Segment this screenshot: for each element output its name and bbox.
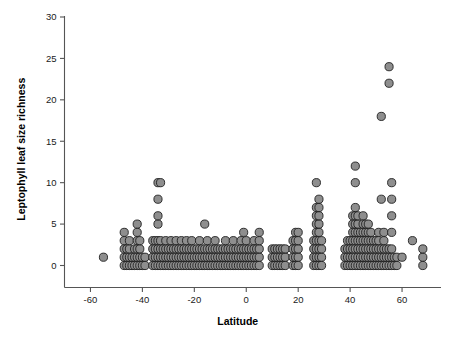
data-point — [211, 237, 219, 245]
data-point — [255, 245, 263, 253]
data-point — [317, 237, 325, 245]
data-point — [317, 261, 325, 269]
data-point — [419, 261, 427, 269]
data-point — [317, 245, 325, 253]
data-point — [136, 245, 144, 253]
data-point — [385, 63, 393, 71]
data-point — [203, 237, 211, 245]
data-point — [351, 162, 359, 170]
data-point — [364, 220, 372, 228]
data-point — [294, 253, 302, 261]
data-point — [120, 228, 128, 236]
data-point — [367, 228, 375, 236]
data-point — [221, 237, 229, 245]
data-point — [388, 212, 396, 220]
data-point — [154, 212, 162, 220]
data-point — [359, 212, 367, 220]
data-point — [133, 228, 141, 236]
data-point — [315, 195, 323, 203]
data-point — [294, 228, 302, 236]
data-point — [99, 253, 107, 261]
data-point — [317, 253, 325, 261]
data-point — [315, 220, 323, 228]
data-point — [242, 237, 250, 245]
data-point — [125, 237, 133, 245]
data-point — [315, 212, 323, 220]
data-point — [351, 203, 359, 211]
y-tick-label: 5 — [51, 218, 56, 229]
data-point — [141, 261, 149, 269]
chart-canvas: 051015202530-60-40-200204060LatitudeLept… — [0, 0, 449, 351]
data-point — [281, 253, 289, 261]
data-point — [255, 253, 263, 261]
data-point — [393, 261, 401, 269]
data-point — [294, 261, 302, 269]
data-point — [315, 228, 323, 236]
axis-labels-layer: 051015202530-60-40-200204060LatitudeLept… — [15, 11, 407, 326]
y-tick-label: 20 — [46, 94, 57, 105]
data-point — [351, 179, 359, 187]
data-point — [388, 245, 396, 253]
data-point — [315, 203, 323, 211]
data-point — [380, 228, 388, 236]
data-point — [380, 237, 388, 245]
data-point — [229, 237, 237, 245]
y-axis-title: Leptophyll leaf size richness — [15, 78, 27, 221]
data-point — [154, 195, 162, 203]
data-points-layer — [99, 63, 427, 270]
x-tick-label: -20 — [187, 294, 201, 305]
x-tick-label: 0 — [244, 294, 249, 305]
data-point — [294, 245, 302, 253]
x-tick-label: -60 — [84, 294, 98, 305]
y-tick-label: 0 — [51, 260, 56, 271]
x-tick-label: -40 — [136, 294, 150, 305]
data-point — [141, 253, 149, 261]
data-point — [281, 245, 289, 253]
x-tick-label: 20 — [293, 294, 304, 305]
data-point — [398, 253, 406, 261]
scatter-plot-figure: 051015202530-60-40-200204060LatitudeLept… — [0, 0, 449, 351]
data-point — [156, 179, 164, 187]
y-tick-label: 30 — [46, 11, 57, 22]
data-point — [388, 228, 396, 236]
data-point — [388, 195, 396, 203]
x-tick-label: 60 — [397, 294, 408, 305]
data-point — [377, 112, 385, 120]
data-point — [255, 228, 263, 236]
x-axis-title: Latitude — [217, 315, 258, 327]
data-point — [136, 237, 144, 245]
y-tick-label: 25 — [46, 53, 57, 64]
data-point — [419, 253, 427, 261]
data-point — [419, 245, 427, 253]
data-point — [188, 237, 196, 245]
data-point — [255, 261, 263, 269]
data-point — [281, 261, 289, 269]
data-point — [240, 228, 248, 236]
data-point — [388, 179, 396, 187]
data-point — [133, 220, 141, 228]
data-point — [154, 220, 162, 228]
data-point — [385, 79, 393, 87]
data-point — [408, 237, 416, 245]
data-point — [377, 195, 385, 203]
x-tick-label: 40 — [345, 294, 356, 305]
data-point — [294, 237, 302, 245]
y-tick-label: 15 — [46, 136, 57, 147]
data-point — [312, 179, 320, 187]
data-point — [201, 220, 209, 228]
data-point — [195, 237, 203, 245]
y-tick-label: 10 — [46, 177, 57, 188]
data-point — [255, 237, 263, 245]
